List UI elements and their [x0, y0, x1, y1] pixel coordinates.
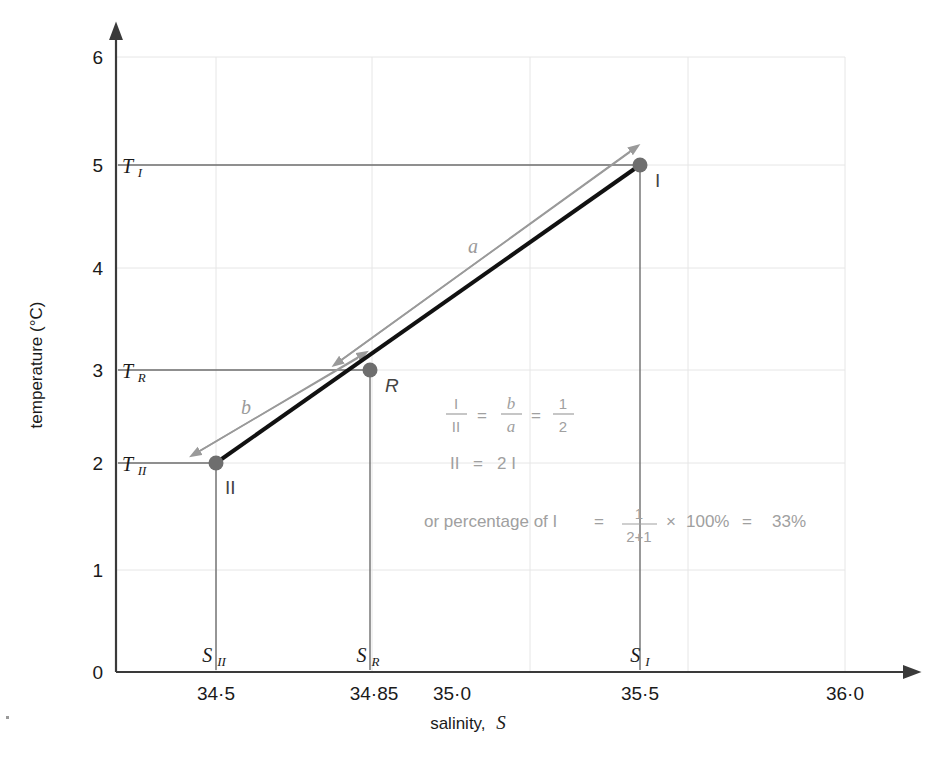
x-tick-34-85: 34·85 [350, 683, 399, 704]
relation-lhs: II [450, 454, 459, 473]
annotation-ratio-equation: I II = b a = 1 2 [446, 394, 574, 436]
ts-mixing-diagram: 6 5 4 3 2 1 0 34·5 34·85 35·0 35·5 36·0 … [0, 0, 936, 757]
figure-container: 6 5 4 3 2 1 0 34·5 34·85 35·0 35·5 36·0 … [0, 0, 936, 757]
ratio-den-2: a [507, 417, 516, 436]
ratio-num-1: I [454, 395, 458, 412]
annotation-block: I II = b a = 1 2 II = 2 I or percenta [424, 394, 806, 545]
point-labels: I R II [225, 170, 660, 498]
annotation-percentage-equation: or percentage of I = 1 2+1 × 100% = 33% [424, 505, 806, 545]
x-axis-title-variable: S [496, 712, 506, 733]
label-T-II-base: T [122, 453, 135, 475]
point-label-I: I [655, 170, 660, 191]
label-T-R: T R [122, 360, 146, 385]
relation-equals: = [473, 454, 483, 473]
y-tick-6: 6 [92, 47, 103, 68]
percentage-equals-2: = [742, 512, 752, 531]
ratio-num-3: 1 [559, 395, 567, 412]
label-S-I-sub: I [644, 654, 650, 669]
percentage-result: 33% [772, 512, 806, 531]
ratio-equals-1: = [477, 406, 487, 425]
label-S-R: S R [357, 644, 380, 669]
label-S-I-base: S [630, 644, 640, 666]
y-tick-1: 1 [92, 560, 103, 581]
segment-label-b: b [241, 396, 251, 418]
y-tick-5: 5 [92, 155, 103, 176]
label-S-R-base: S [357, 644, 367, 666]
y-axis-title: temperature (°C) [27, 302, 46, 429]
label-S-II-sub: II [216, 654, 226, 669]
y-tick-0: 0 [92, 662, 103, 683]
x-axis-title: salinity, S [430, 712, 506, 733]
axes [116, 38, 905, 672]
percentage-num: 1 [635, 505, 643, 522]
label-T-II: T II [122, 453, 147, 478]
segment-a-arrow-to-I [340, 150, 632, 361]
ratio-den-1: II [452, 418, 460, 435]
x-tick-35-5: 35·5 [621, 683, 659, 704]
data-point-R[interactable] [363, 363, 378, 378]
x-tick-labels: 34·5 34·85 35·0 35·5 36·0 [197, 683, 864, 704]
label-T-I: T I [122, 155, 143, 180]
percentage-den: 2+1 [626, 528, 651, 545]
ratio-den-3: 2 [559, 418, 567, 435]
label-S-II-base: S [202, 644, 212, 666]
relation-rhs: 2 I [497, 454, 516, 473]
percentage-prefix: or percentage of I [424, 512, 557, 531]
data-point-I[interactable] [633, 158, 648, 173]
mixing-line [216, 165, 640, 463]
label-T-R-base: T [122, 360, 135, 382]
y-tick-2: 2 [92, 453, 103, 474]
point-label-R: R [385, 375, 399, 396]
label-T-I-base: T [122, 155, 135, 177]
x-tick-35-0: 35·0 [433, 683, 471, 704]
data-point-II[interactable] [209, 456, 224, 471]
label-T-II-sub: II [137, 463, 147, 478]
ratio-equals-2: = [531, 406, 541, 425]
segment-label-a: a [468, 235, 478, 257]
ratio-num-2: b [507, 394, 516, 413]
percentage-hundred: 100% [686, 512, 729, 531]
label-T-I-sub: I [137, 165, 143, 180]
y-tick-3: 3 [92, 360, 103, 381]
label-T-R-sub: R [137, 370, 146, 385]
percentage-times: × [666, 512, 676, 531]
x-axis-title-plain: salinity, [430, 714, 485, 733]
x-axis-variable-labels: S I S R S II [202, 644, 650, 669]
point-label-II: II [225, 477, 236, 498]
label-S-I: S I [630, 644, 650, 669]
y-tick-labels: 6 5 4 3 2 1 0 [92, 47, 103, 683]
x-tick-34-5: 34·5 [197, 683, 235, 704]
label-S-R-sub: R [371, 654, 380, 669]
y-tick-4: 4 [92, 258, 103, 279]
x-tick-36-0: 36·0 [826, 683, 864, 704]
percentage-equals-1: = [594, 512, 604, 531]
grid-lines [116, 57, 845, 672]
label-S-II: S II [202, 644, 226, 669]
y-axis-variable-labels: T I T R T II [122, 155, 147, 478]
